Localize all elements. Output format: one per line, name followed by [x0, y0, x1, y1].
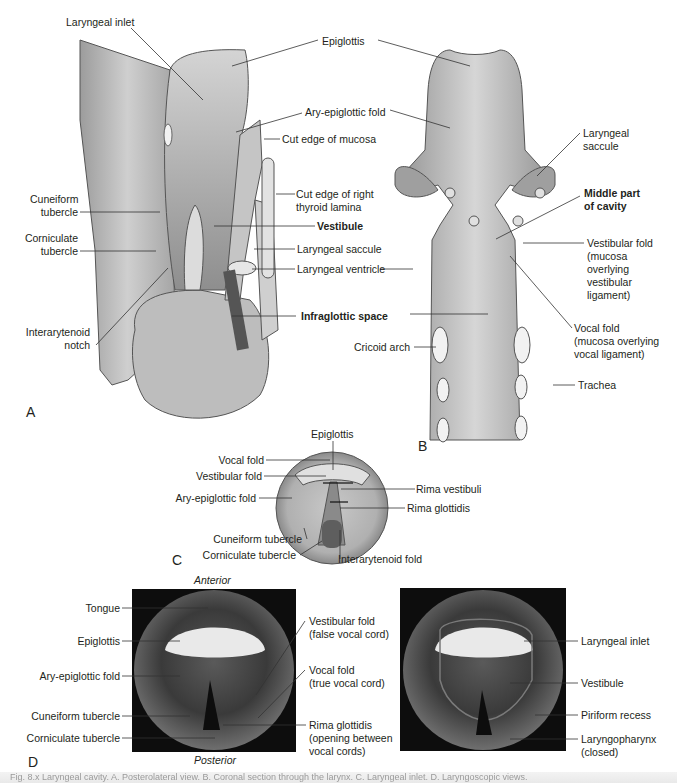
label-line: (false vocal cord) [309, 628, 389, 641]
label-laryngeal-inlet-d: Laryngeal inlet [581, 635, 649, 648]
panel-a-drawing [80, 40, 278, 418]
label-piriform-recess: Piriform recess [581, 709, 651, 722]
label-posterior: Posterior [194, 754, 236, 767]
label-rima-glottidis-d: Rima glottidis (opening between vocal co… [309, 719, 392, 758]
label-vocal-fold-c: Vocal fold [180, 454, 264, 467]
label-corniculate-tubercle-c: Corniculate tubercle [190, 549, 296, 562]
label-line: Rima glottidis [309, 719, 392, 732]
label-laryngeal-saccule: Laryngeal saccule [297, 243, 382, 256]
label-cut-edge-thyroid-1: Cut edge of right [296, 188, 374, 201]
label-cricoid-arch: Cricoid arch [354, 341, 410, 354]
label-line: (true vocal cord) [309, 677, 385, 690]
label-line: Laryngopharynx [581, 733, 656, 746]
label-ary-epiglottic-fold-c: Ary-epiglottic fold [150, 492, 256, 505]
label-line: Vocal fold [574, 322, 659, 335]
label-vocal-fold-b: Vocal fold (mucosa overlying vocal ligam… [574, 322, 659, 361]
label-epiglottis-d: Epiglottis [20, 635, 120, 648]
label-line: Vestibular fold [587, 237, 653, 250]
label-tongue: Tongue [20, 602, 120, 615]
label-vestibular-fold-c: Vestibular fold [160, 470, 262, 483]
panel-letter-d: D [28, 754, 38, 770]
label-infraglottic-space: Infraglottic space [301, 310, 388, 323]
label-line: (closed) [581, 746, 656, 759]
panel-b-drawing [395, 50, 555, 442]
label-anterior: Anterior [194, 574, 231, 587]
label-line: ligament) [587, 289, 653, 302]
label-cuneiform-1: Cuneiform [30, 193, 78, 206]
label-laryngeal-inlet: Laryngeal inlet [66, 16, 134, 29]
label-laryngeal-saccule-b-1: Laryngeal [583, 127, 629, 140]
label-line: Vocal fold [309, 664, 385, 677]
label-line: vocal ligament) [574, 348, 659, 361]
label-epiglottis: Epiglottis [322, 35, 365, 48]
label-vestibular-fold-d: Vestibular fold (false vocal cord) [309, 615, 389, 641]
label-corniculate-1: Corniculate [18, 232, 78, 245]
label-epiglottis-c: Epiglottis [311, 428, 354, 441]
figure-caption: Fig. 8.x Laryngeal cavity. A. Posterolat… [10, 772, 670, 782]
label-rima-glottidis-c: Rima glottidis [407, 502, 470, 515]
label-cuneiform-tubercle-c: Cuneiform tubercle [190, 533, 302, 546]
label-cut-edge-thyroid-2: thyroid lamina [296, 201, 361, 214]
label-interarytenoid-fold: Interarytenoid fold [338, 553, 422, 566]
label-middle-part-1: Middle part [584, 187, 640, 200]
label-corniculate-tubercle-d: Corniculate tubercle [0, 732, 120, 745]
label-cuneiform-tubercle-d: Cuneiform tubercle [0, 710, 120, 723]
label-rima-vestibuli: Rima vestibuli [416, 483, 481, 496]
label-trachea: Trachea [578, 379, 616, 392]
label-line: vestibular [587, 276, 653, 289]
label-interarytenoid-2: notch [10, 339, 90, 352]
label-line: vocal cords) [309, 745, 392, 758]
label-vocal-fold-d: Vocal fold (true vocal cord) [309, 664, 385, 690]
label-line: Vestibular fold [309, 615, 389, 628]
label-line: (mucosa [587, 250, 653, 263]
label-line: overlying [587, 263, 653, 276]
label-line: (opening between [309, 732, 392, 745]
label-laryngeal-ventricle: Laryngeal ventricle [297, 263, 385, 276]
panel-letter-b: B [418, 438, 427, 454]
label-interarytenoid-1: Interarytenoid [10, 326, 90, 339]
label-cuneiform-2: tubercle [30, 206, 78, 219]
label-line: (mucosa overlying [574, 335, 659, 348]
label-laryngopharynx: Laryngopharynx (closed) [581, 733, 656, 759]
label-corniculate-2: tubercle [18, 245, 78, 258]
label-middle-part-2: of cavity [584, 200, 627, 213]
label-ary-epiglottic-fold-d: Ary-epiglottic fold [0, 670, 120, 683]
label-vestibular-fold-b: Vestibular fold (mucosa overlying vestib… [587, 237, 653, 302]
label-ary-epiglottic-fold: Ary-epiglottic fold [305, 106, 386, 119]
label-laryngeal-saccule-b-2: saccule [583, 140, 619, 153]
panel-letter-a: A [26, 404, 35, 420]
label-cut-edge-mucosa: Cut edge of mucosa [282, 133, 376, 146]
label-vestibule: Vestibule [317, 220, 363, 233]
panel-letter-c: C [172, 552, 182, 568]
label-vestibule-d: Vestibule [581, 677, 624, 690]
